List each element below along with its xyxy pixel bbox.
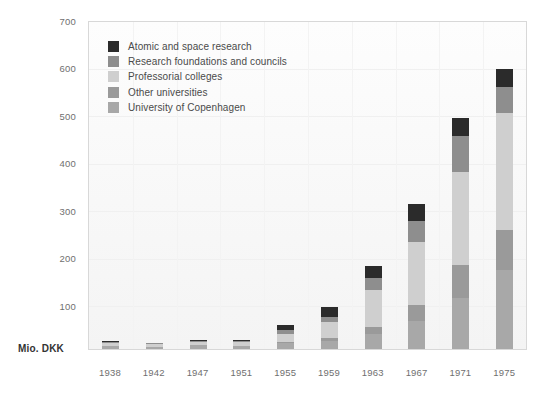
vgridline-5 bbox=[308, 22, 309, 349]
y-axis-unit-label: Mio. DKK bbox=[18, 343, 82, 354]
legend-item: Other universities bbox=[108, 85, 287, 100]
bar-segment bbox=[452, 118, 469, 137]
bar-segment bbox=[321, 322, 338, 337]
x-tick-1967: 1967 bbox=[392, 367, 442, 378]
bar-segment bbox=[321, 307, 338, 317]
bar-segment bbox=[408, 321, 425, 349]
bar-1951[interactable] bbox=[233, 340, 250, 349]
y-tick-200: 200 bbox=[20, 253, 76, 264]
legend-swatch-university-of-copenhagen bbox=[108, 102, 119, 113]
bar-1947[interactable] bbox=[190, 340, 207, 349]
vgridline-8 bbox=[439, 22, 440, 349]
bar-1963[interactable] bbox=[365, 266, 382, 349]
bar-segment bbox=[452, 265, 469, 298]
x-tick-1942: 1942 bbox=[129, 367, 179, 378]
vgridline-9 bbox=[483, 22, 484, 349]
bar-segment bbox=[233, 346, 250, 349]
bar-1959[interactable] bbox=[321, 307, 338, 349]
bar-segment bbox=[365, 290, 382, 327]
y-tick-600: 600 bbox=[20, 63, 76, 74]
bar-1942[interactable] bbox=[146, 343, 163, 349]
bar-segment bbox=[408, 305, 425, 321]
chart-legend: Atomic and space research Research found… bbox=[108, 39, 287, 115]
bar-segment bbox=[452, 136, 469, 171]
legend-label: University of Copenhagen bbox=[128, 102, 245, 113]
bar-segment bbox=[408, 242, 425, 305]
legend-swatch-professorial-colleges bbox=[108, 71, 119, 82]
bar-segment bbox=[365, 278, 382, 290]
y-tick-500: 500 bbox=[20, 111, 76, 122]
legend-swatch-atomic-and-space-research bbox=[108, 41, 119, 52]
bar-segment bbox=[190, 345, 207, 349]
x-tick-1951: 1951 bbox=[216, 367, 266, 378]
legend-item: Atomic and space research bbox=[108, 39, 287, 54]
bar-segment bbox=[452, 172, 469, 265]
x-tick-1947: 1947 bbox=[173, 367, 223, 378]
vgridline-7 bbox=[396, 22, 397, 349]
x-tick-1963: 1963 bbox=[348, 367, 398, 378]
y-tick-100: 100 bbox=[20, 301, 76, 312]
x-tick-1938: 1938 bbox=[85, 367, 135, 378]
legend-item: Professorial colleges bbox=[108, 69, 287, 84]
legend-label: Professorial colleges bbox=[128, 71, 222, 82]
bar-segment bbox=[496, 113, 513, 230]
bar-segment bbox=[277, 334, 294, 342]
legend-item: Research foundations and councils bbox=[108, 54, 287, 69]
bar-1971[interactable] bbox=[452, 118, 469, 349]
bar-segment bbox=[365, 334, 382, 349]
bar-segment bbox=[146, 347, 163, 349]
bar-1955[interactable] bbox=[277, 325, 294, 349]
stacked-bar-chart: 700 600 500 400 300 200 100 Mio. DKK bbox=[0, 0, 546, 402]
bar-segment bbox=[496, 87, 513, 113]
bar-segment bbox=[452, 298, 469, 349]
bar-segment bbox=[102, 346, 119, 349]
legend-swatch-research-foundations-and-councils bbox=[108, 56, 119, 67]
legend-swatch-other-universities bbox=[108, 87, 119, 98]
bar-segment bbox=[365, 266, 382, 278]
x-tick-1959: 1959 bbox=[304, 367, 354, 378]
legend-label: Other universities bbox=[128, 87, 208, 98]
x-tick-1975: 1975 bbox=[479, 367, 529, 378]
bar-segment bbox=[277, 343, 294, 349]
bar-segment bbox=[496, 230, 513, 270]
bar-segment bbox=[321, 341, 338, 349]
bar-1938[interactable] bbox=[102, 341, 119, 349]
bar-segment bbox=[408, 204, 425, 220]
y-tick-300: 300 bbox=[20, 206, 76, 217]
vgridline-6 bbox=[352, 22, 353, 349]
bar-segment bbox=[496, 270, 513, 349]
legend-item: University of Copenhagen bbox=[108, 100, 287, 115]
y-tick-400: 400 bbox=[20, 158, 76, 169]
bar-1975[interactable] bbox=[496, 69, 513, 349]
x-tick-1955: 1955 bbox=[260, 367, 310, 378]
legend-label: Research foundations and councils bbox=[128, 56, 287, 67]
plot-area: Atomic and space research Research found… bbox=[88, 21, 527, 350]
legend-label: Atomic and space research bbox=[128, 41, 252, 52]
bar-1967[interactable] bbox=[408, 204, 425, 349]
bar-segment bbox=[496, 69, 513, 88]
y-tick-700: 700 bbox=[20, 16, 76, 27]
x-tick-1971: 1971 bbox=[435, 367, 485, 378]
bar-segment bbox=[408, 221, 425, 242]
